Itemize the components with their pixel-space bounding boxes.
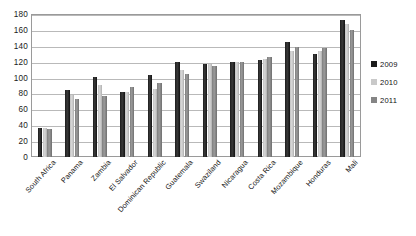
bar-group	[224, 14, 252, 157]
bar-2010	[318, 51, 322, 157]
bar-2010	[180, 70, 184, 157]
bar-2011	[102, 96, 106, 157]
legend-item: 2010	[371, 78, 415, 86]
bar-group	[31, 14, 59, 157]
bar-group	[251, 14, 279, 157]
x-axis-label: Panama	[59, 158, 85, 185]
bar-group	[169, 14, 197, 157]
bar-2011	[47, 129, 51, 157]
legend-label: 2011	[380, 96, 397, 105]
bar-2010	[345, 24, 349, 157]
y-axis-tick-label: 60	[2, 105, 28, 114]
y-axis-tick-label: 140	[2, 41, 28, 50]
bar-2010	[208, 64, 212, 157]
bar-2009	[65, 90, 69, 157]
bar-2011	[267, 57, 271, 157]
bar-2010	[70, 95, 74, 157]
bar-2011	[322, 48, 326, 157]
bar-2009	[38, 128, 42, 157]
legend-item: 2011	[371, 96, 415, 104]
bar-2011	[157, 83, 161, 157]
legend-swatch-icon	[371, 79, 377, 85]
bar-2009	[258, 60, 262, 157]
bar-group	[196, 14, 224, 157]
legend-label: 2009	[380, 60, 398, 69]
bar-2009	[203, 64, 207, 157]
x-axis-label: South Africa	[23, 158, 57, 195]
bar-2010	[43, 128, 47, 157]
bar-2010	[235, 62, 239, 157]
legend-item: 2009	[371, 60, 415, 68]
bar-2011	[295, 47, 299, 157]
bar-2011	[350, 30, 354, 157]
y-axis-tick-labels: 180160140120100806040200	[0, 0, 28, 160]
y-axis-tick-label: 180	[2, 10, 28, 19]
bar-2011	[185, 74, 189, 157]
bar-2011	[212, 66, 216, 157]
bar-2010	[98, 85, 102, 157]
bar-group	[306, 14, 334, 157]
x-axis-label: Honduras	[304, 158, 333, 188]
bar-2010	[125, 92, 129, 157]
x-axis-label: Mali	[344, 158, 360, 174]
bar-2009	[93, 77, 97, 157]
y-axis-tick-label: 80	[2, 89, 28, 98]
bar-2011	[130, 87, 134, 157]
bar-group	[279, 14, 307, 157]
legend-swatch-icon	[371, 61, 377, 67]
legend: 200920102011	[371, 60, 415, 114]
y-axis-tick-label: 100	[2, 73, 28, 82]
x-axis-label: Swaziland	[193, 158, 223, 190]
bar-2009	[120, 92, 124, 157]
y-axis-tick-label: 40	[2, 121, 28, 130]
bar-group	[114, 14, 142, 157]
bar-group	[334, 14, 362, 157]
bar-group	[59, 14, 87, 157]
y-axis-tick-label: 20	[2, 137, 28, 146]
bar-chart: 180160140120100806040200 South AfricaPan…	[0, 0, 416, 236]
bar-group	[141, 14, 169, 157]
x-axis-label: Dominican Republic	[116, 158, 168, 214]
y-axis-tick-label: 120	[2, 57, 28, 66]
bar-2010	[263, 59, 267, 158]
bar-2010	[290, 51, 294, 157]
bar-2009	[148, 75, 152, 157]
bar-2009	[313, 54, 317, 157]
bar-group	[86, 14, 114, 157]
bar-2011	[75, 99, 79, 157]
bar-2010	[153, 89, 157, 157]
bar-2009	[175, 62, 179, 157]
bars-layer	[31, 14, 361, 157]
x-axis-category-labels: South AfricaPanamaZambiaEl SalvadorDomin…	[31, 158, 361, 236]
bar-2009	[285, 42, 289, 157]
bar-2011	[240, 62, 244, 157]
legend-swatch-icon	[371, 97, 377, 103]
y-axis-tick-label: 0	[2, 153, 28, 162]
legend-label: 2010	[380, 78, 398, 87]
bar-2009	[230, 62, 234, 157]
y-axis-tick-label: 160	[2, 25, 28, 34]
bar-2009	[340, 20, 344, 157]
x-axis-label: Zambia	[89, 158, 113, 183]
